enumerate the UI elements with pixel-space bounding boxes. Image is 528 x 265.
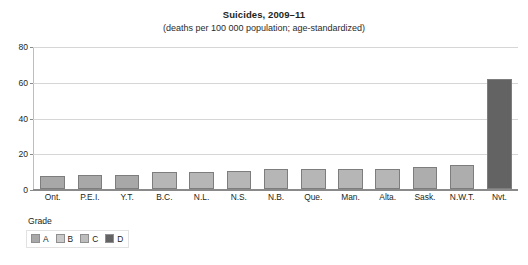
gridline-0 — [33, 190, 518, 191]
chart-title: Suicides, 2009–11 — [0, 9, 528, 20]
x-tick-label-alta: Alta. — [369, 192, 406, 202]
bar-que[interactable] — [301, 169, 326, 189]
legend-label-b: B — [68, 234, 74, 244]
x-tick-label-nl: N.L. — [183, 192, 220, 202]
x-tick-label-nwt: N.W.T. — [444, 192, 481, 202]
legend-swatch-row: ABCD — [26, 230, 129, 248]
bar-sask[interactable] — [413, 167, 438, 189]
x-tick-label-pei: P.E.I. — [71, 192, 108, 202]
bar-bc[interactable] — [152, 172, 177, 189]
bar-slot-bc — [146, 47, 183, 189]
bar-series — [34, 47, 518, 189]
bar-nb[interactable] — [264, 169, 289, 189]
plot-area: 020406080 — [33, 47, 518, 190]
y-tick-mark-40 — [30, 119, 33, 120]
y-tick-mark-60 — [30, 83, 33, 84]
bar-slot-ns — [220, 47, 257, 189]
chart-figure: Suicides, 2009–11 (deaths per 100 000 po… — [0, 0, 528, 265]
bar-yt[interactable] — [115, 175, 140, 189]
legend-item-d[interactable]: D — [105, 234, 123, 244]
x-tick-label-man: Man. — [332, 192, 369, 202]
bar-man[interactable] — [338, 169, 363, 189]
x-tick-label-que: Que. — [295, 192, 332, 202]
bar-slot-nl — [183, 47, 220, 189]
legend: Grade ABCD — [26, 216, 166, 248]
bar-alta[interactable] — [375, 169, 400, 189]
bar-nwt[interactable] — [450, 165, 475, 189]
bar-ont[interactable] — [40, 176, 65, 189]
bar-pei[interactable] — [78, 175, 103, 189]
y-tick-mark-80 — [30, 47, 33, 48]
legend-swatch-b-icon — [56, 234, 65, 243]
legend-title: Grade — [26, 216, 166, 226]
bar-slot-nwt — [444, 47, 481, 189]
y-tick-mark-0 — [30, 190, 33, 191]
x-axis-labels: Ont.P.E.I.Y.T.B.C.N.L.N.S.N.B.Que.Man.Al… — [34, 192, 518, 202]
x-tick-label-ont: Ont. — [34, 192, 71, 202]
x-axis-line — [33, 189, 518, 190]
legend-item-c[interactable]: C — [80, 234, 98, 244]
legend-swatch-d-icon — [105, 234, 114, 243]
x-tick-label-yt: Y.T. — [108, 192, 145, 202]
y-tick-label-80: 80 — [18, 42, 28, 52]
x-tick-label-nvt: Nvt. — [481, 192, 518, 202]
y-tick-mark-20 — [30, 154, 33, 155]
bar-slot-pei — [71, 47, 108, 189]
legend-swatch-c-icon — [80, 234, 89, 243]
x-tick-label-ns: N.S. — [220, 192, 257, 202]
bar-slot-que — [295, 47, 332, 189]
bar-slot-nvt — [481, 47, 518, 189]
bar-slot-ont — [34, 47, 71, 189]
y-tick-label-0: 0 — [23, 185, 28, 195]
y-tick-label-60: 60 — [18, 78, 28, 88]
y-tick-label-40: 40 — [18, 114, 28, 124]
legend-item-a[interactable]: A — [31, 234, 49, 244]
x-tick-label-bc: B.C. — [146, 192, 183, 202]
legend-item-b[interactable]: B — [56, 234, 74, 244]
x-tick-label-nb: N.B. — [257, 192, 294, 202]
legend-swatch-a-icon — [31, 234, 40, 243]
legend-label-a: A — [43, 234, 49, 244]
y-tick-label-20: 20 — [18, 149, 28, 159]
legend-label-d: D — [117, 234, 123, 244]
bar-slot-yt — [108, 47, 145, 189]
bar-slot-nb — [257, 47, 294, 189]
x-tick-label-sask: Sask. — [406, 192, 443, 202]
bar-nvt[interactable] — [487, 79, 512, 189]
bar-slot-sask — [406, 47, 443, 189]
bar-ns[interactable] — [227, 171, 252, 189]
bar-slot-alta — [369, 47, 406, 189]
legend-label-c: C — [92, 234, 98, 244]
bar-slot-man — [332, 47, 369, 189]
bar-nl[interactable] — [189, 172, 214, 189]
chart-subtitle: (deaths per 100 000 population; age-stan… — [0, 23, 528, 33]
